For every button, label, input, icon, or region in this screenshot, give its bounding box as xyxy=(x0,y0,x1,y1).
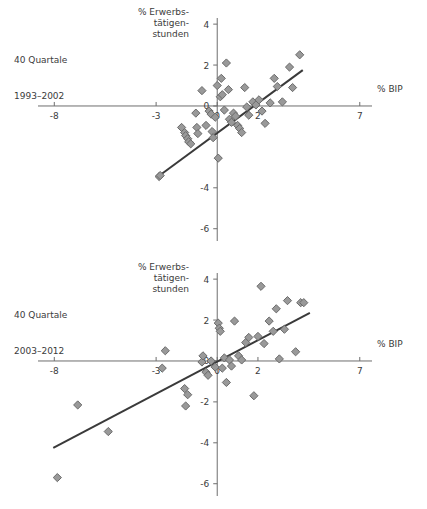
data-point-marker xyxy=(161,347,169,355)
data-point-marker xyxy=(182,402,190,410)
data-point-marker xyxy=(217,74,225,82)
y-tick-label: 4 xyxy=(203,275,209,285)
y-tick-label: -2 xyxy=(200,397,209,407)
data-point-marker xyxy=(285,63,293,71)
x-tick-label: 7 xyxy=(357,111,363,121)
data-point-marker xyxy=(213,81,221,89)
scatter-plot-1: -8-3027420-4-6 xyxy=(0,0,427,254)
x-tick-label: -3 xyxy=(152,111,161,121)
y-tick-label: -6 xyxy=(200,479,209,489)
y-tick-label: 2 xyxy=(203,316,209,326)
data-point-marker xyxy=(53,473,61,481)
data-point-marker xyxy=(265,317,273,325)
data-point-marker xyxy=(280,325,288,333)
data-point-marker xyxy=(273,82,281,90)
y-tick-label: -6 xyxy=(200,224,209,234)
data-point-marker xyxy=(288,83,296,91)
data-point-marker xyxy=(261,119,269,127)
x-tick-label: 2 xyxy=(255,366,261,376)
data-point-marker xyxy=(214,154,222,162)
y-tick-label: 4 xyxy=(203,20,209,30)
data-point-marker xyxy=(222,378,230,386)
chart-panel-1993-2002: 40 Quartale 1993–2002 % Erwerbs- tätigen… xyxy=(0,0,427,254)
data-point-marker xyxy=(270,74,278,82)
y-tick-label: 2 xyxy=(203,61,209,71)
plot-svg-2: -8-3027420-2-4-6 xyxy=(0,255,427,509)
data-point-marker xyxy=(224,86,232,94)
x-tick-label: 7 xyxy=(357,366,363,376)
plot-svg-1: -8-3027420-4-6 xyxy=(0,0,427,254)
data-point-marker xyxy=(296,51,304,59)
data-point-marker xyxy=(241,83,249,91)
data-point-marker xyxy=(292,348,300,356)
data-point-marker xyxy=(222,59,230,67)
data-point-marker xyxy=(198,87,206,95)
chart-panel-2003-2012: 40 Quartale 2003–2012 % Erwerbs- tätigen… xyxy=(0,255,427,509)
data-point-marker xyxy=(104,427,112,435)
data-point-marker xyxy=(278,98,286,106)
data-point-marker xyxy=(250,392,258,400)
data-point-marker xyxy=(257,282,265,290)
data-point-marker xyxy=(260,339,268,347)
data-point-marker xyxy=(74,401,82,409)
data-point-marker xyxy=(272,305,280,313)
data-point-marker xyxy=(194,129,202,137)
scatter-plot-2: -8-3027420-2-4-6 xyxy=(0,255,427,509)
data-point-marker xyxy=(192,109,200,117)
data-point-marker xyxy=(220,106,228,114)
x-tick-label: -8 xyxy=(50,366,59,376)
data-point-marker xyxy=(283,297,291,305)
x-tick-label: -8 xyxy=(50,111,59,121)
data-point-marker xyxy=(202,121,210,129)
data-point-marker xyxy=(275,355,283,363)
data-point-marker xyxy=(230,317,238,325)
y-tick-label: -4 xyxy=(200,183,209,193)
y-tick-label: -4 xyxy=(200,438,209,448)
